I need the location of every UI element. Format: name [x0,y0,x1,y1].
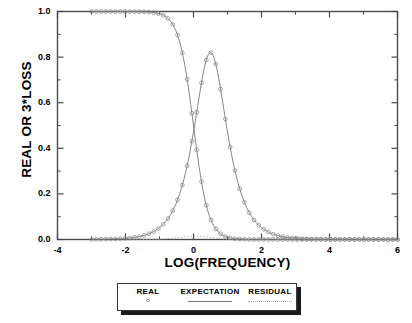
axis-ticks [58,12,398,240]
x-tick-label: -4 [46,246,70,255]
plot-frame [58,12,398,240]
plot-area [0,0,412,323]
legend-label-residual: RESIDUAL [242,286,298,297]
legend-box: REAL EXPECTATION RESIDUAL [117,283,297,311]
legend-item-residual[interactable]: RESIDUAL [242,286,298,310]
y-tick-label: 0.6 [21,98,51,107]
x-tick-label: 4 [318,246,342,255]
chart-figure: REAL OR 3*LOSS LOG(FREQUENCY) 0.00.20.40… [0,0,412,323]
x-tick-label: 6 [386,246,410,255]
loss-data-markers [90,51,400,242]
legend-item-real[interactable]: REAL [118,286,178,310]
legend-item-expectation[interactable]: EXPECTATION [176,286,244,310]
real-data-markers [90,10,400,242]
legend-symbol-circle-icon [118,297,178,306]
x-tick-label: 2 [250,246,274,255]
expectation-curve-loss [92,53,398,240]
data-curves [90,10,400,242]
y-tick-label: 0.4 [21,144,51,153]
y-tick-label: 1.0 [21,7,51,16]
legend-label-expectation: EXPECTATION [176,286,244,297]
legend-symbol-line-icon [176,297,244,306]
x-tick-label: 0 [182,246,206,255]
y-tick-label: 0.8 [21,53,51,62]
y-tick-label: 0.2 [21,189,51,198]
legend-label-real: REAL [118,286,178,297]
y-tick-label: 0.0 [21,235,51,244]
x-tick-label: -2 [114,246,138,255]
legend-symbol-dotted-icon [242,297,298,306]
expectation-curve-real [92,12,398,240]
